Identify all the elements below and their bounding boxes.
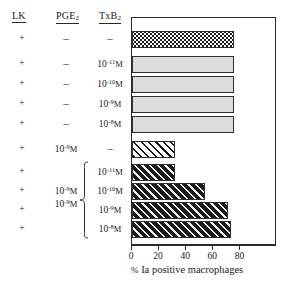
cell-txb2-row-8: 10-10M xyxy=(88,185,132,196)
cell-lk-row-8: + xyxy=(10,185,34,195)
x-axis-title: % Ia positive macrophages xyxy=(131,264,291,275)
x-axis-tick-20 xyxy=(158,245,159,250)
cell-lk-row-7: + xyxy=(10,166,34,176)
column-header-lk-label: LK xyxy=(12,10,26,21)
bar-row-2 xyxy=(132,56,234,73)
x-axis-tick-label-80: 80 xyxy=(235,251,245,261)
cell-pge2-row-5: – xyxy=(44,118,88,129)
x-axis-tick-60 xyxy=(212,245,213,250)
plot-area xyxy=(131,17,276,245)
cell-lk-row-5: + xyxy=(10,118,34,128)
cell-pge2-row-2: – xyxy=(44,58,88,69)
cell-lk-row-3: + xyxy=(10,78,34,88)
cell-txb2-row-5: 10-8M xyxy=(88,118,132,129)
x-axis-tick-40 xyxy=(185,245,186,250)
bar-row-3 xyxy=(132,76,234,93)
cell-txb2-row-9: 10-9M xyxy=(88,204,132,215)
brace-icon xyxy=(78,161,90,239)
cell-txb2-row-7: 10-11M xyxy=(88,166,132,177)
group-brace xyxy=(78,161,90,239)
cell-lk-row-4: + xyxy=(10,98,34,108)
column-header-lk: LK xyxy=(12,10,26,23)
x-axis-tick-label-40: 40 xyxy=(180,251,190,261)
x-axis: 020406080 xyxy=(131,245,276,246)
figure-panel: LK PGE2 TxB2 +––+–10-11M+–10-10M+–10-9M+… xyxy=(0,0,291,295)
cell-pge2-row-3: – xyxy=(44,78,88,89)
column-header-pge2-subscript: 2 xyxy=(76,14,80,22)
cell-pge2-row-1: – xyxy=(44,33,88,44)
cell-lk-row-1: + xyxy=(10,33,34,43)
cell-lk-row-6: + xyxy=(10,143,34,153)
cell-lk-row-9: + xyxy=(10,204,34,214)
cell-txb2-row-3: 10-10M xyxy=(88,78,132,89)
cell-txb2-row-4: 10-9M xyxy=(88,98,132,109)
column-header-pge2-label: PGE xyxy=(56,10,76,21)
cell-pge2-row-4: – xyxy=(44,98,88,109)
x-axis-tick-0 xyxy=(131,245,132,250)
bar-row-7 xyxy=(132,164,175,181)
x-axis-tick-label-0: 0 xyxy=(129,251,134,261)
cell-lk-row-10: + xyxy=(10,223,34,233)
x-axis-title-percent: % xyxy=(131,265,139,275)
bar-row-9 xyxy=(132,202,228,219)
x-axis-tick-label-20: 20 xyxy=(153,251,163,261)
cell-txb2-row-2: 10-11M xyxy=(88,58,132,69)
x-axis-tick-label-60: 60 xyxy=(208,251,218,261)
column-header-pge2: PGE2 xyxy=(56,10,79,24)
cell-txb2-row-6: – xyxy=(88,143,132,154)
cell-txb2-row-1: – xyxy=(88,33,132,44)
column-header-txb2-subscript: 2 xyxy=(117,14,121,22)
cell-lk-row-2: + xyxy=(10,58,34,68)
bar-row-6 xyxy=(132,141,175,158)
bar-row-8 xyxy=(132,183,205,200)
column-header-txb2-label: TxB xyxy=(99,10,117,21)
x-axis-tick-80 xyxy=(239,245,240,250)
bar-row-4 xyxy=(132,96,234,113)
x-axis-title-text: Ia positive macrophages xyxy=(139,264,244,275)
bar-row-1 xyxy=(132,31,234,48)
column-header-txb2: TxB2 xyxy=(99,10,121,24)
cell-pge2-row-6: 10-9M xyxy=(44,143,88,154)
cell-txb2-row-10: 10-8M xyxy=(88,223,132,234)
bar-row-10 xyxy=(132,221,231,238)
bar-row-5 xyxy=(132,116,234,133)
x-axis-line xyxy=(131,245,276,246)
